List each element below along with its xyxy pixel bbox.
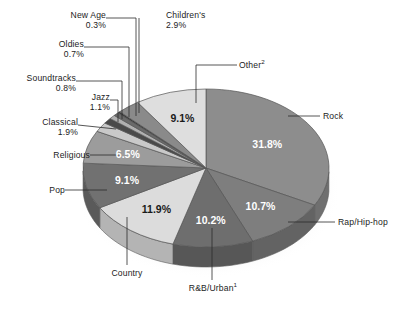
callout-childrens-name: Children's (166, 10, 205, 20)
callout-country: Country (99, 268, 155, 278)
callout-rnb-superscript: 1 (234, 281, 238, 288)
callout-rap: Rap/Hip-hop (338, 217, 405, 227)
callout-new-age-name: New Age (71, 10, 106, 20)
callout-other-superscript: 2 (261, 58, 265, 65)
slice-value-other: 9.1% (170, 112, 195, 124)
callout-pop-name: Pop (49, 185, 65, 195)
callout-religious-name: Religious (53, 150, 90, 160)
callout-soundtracks-name: Soundtracks (27, 73, 76, 83)
slice-value-pop: 9.1% (115, 174, 140, 186)
callout-classical-name: Classical (42, 117, 78, 127)
callout-rap-name: Rap/Hip-hop (338, 217, 388, 227)
callout-religious: Religious (24, 150, 90, 160)
callout-jazz-name: Jazz (92, 92, 110, 102)
callout-rnb-name: R&B/Urban (189, 283, 234, 293)
callout-rock-name: Rock (323, 111, 343, 121)
callout-classical: Classical 1.9% (16, 117, 78, 137)
callout-new-age: New Age 0.3% (34, 10, 106, 30)
callout-other: Other2 (239, 60, 299, 70)
callout-pop: Pop (28, 185, 65, 195)
leader-line-new-age (106, 18, 136, 116)
slice-value-country: 11.9% (142, 203, 172, 215)
slice-value-religious: 6.5% (116, 148, 141, 160)
callout-oldies: Oldies 0.7% (22, 39, 84, 59)
slice-value-rap-hip-hop: 10.7% (246, 200, 276, 212)
callout-classical-pct: 1.9% (16, 127, 78, 137)
callout-soundtracks-pct: 0.8% (4, 83, 76, 93)
callout-childrens: Children's 2.9% (166, 10, 236, 30)
callout-childrens-pct: 2.9% (166, 20, 236, 30)
callout-other-name: Other (239, 60, 261, 70)
callout-country-name: Country (111, 268, 142, 278)
callout-new-age-pct: 0.3% (34, 20, 106, 30)
slice-value-r-b-urban: 10.2% (196, 214, 226, 226)
callout-rnb: R&B/Urban1 (178, 283, 248, 293)
callout-jazz-pct: 1.1% (72, 102, 110, 112)
callout-jazz: Jazz 1.1% (72, 92, 110, 112)
pie-chart-figure: 31.8%10.7%10.2%11.9%9.1%6.5%9.1% New Age… (0, 0, 405, 309)
callout-oldies-name: Oldies (59, 39, 84, 49)
slice-value-rock: 31.8% (252, 138, 282, 150)
callout-soundtracks: Soundtracks 0.8% (4, 73, 76, 93)
callout-rock: Rock (323, 111, 373, 121)
callout-oldies-pct: 0.7% (22, 49, 84, 59)
